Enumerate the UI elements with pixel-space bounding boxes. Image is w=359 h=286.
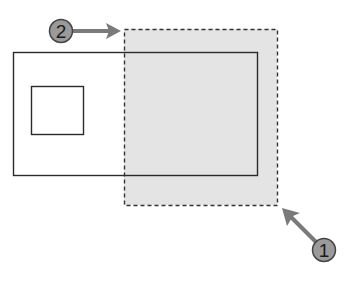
- callout-2: 2: [50, 20, 122, 43]
- callout-label-1: 1: [319, 240, 330, 261]
- callout-1: 1: [282, 208, 336, 262]
- arrow-up-left-icon: [291, 217, 316, 242]
- selection-diagram: 2 1: [0, 0, 359, 286]
- callout-label-2: 2: [56, 21, 67, 42]
- inner-rectangle: [32, 87, 84, 135]
- selection-window-fill: [124, 29, 277, 205]
